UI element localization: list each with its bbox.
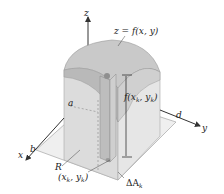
area-label: ΔAk <box>126 178 143 189</box>
column-box-side <box>110 74 116 162</box>
b-label: b <box>30 144 36 154</box>
region-label: R <box>54 162 62 172</box>
column-box <box>100 76 110 162</box>
a-label: a <box>68 98 73 108</box>
column-top-point <box>104 73 110 79</box>
d-label: d <box>176 110 182 120</box>
surface-label: z = f(x, y) <box>113 26 159 36</box>
point-label: (xk, yk) <box>58 172 89 183</box>
x-axis-label: x <box>18 150 23 160</box>
y-axis-label: y <box>201 123 208 133</box>
z-axis-label: z <box>83 8 89 18</box>
double-integral-diagram: z x y z = f(x, y) f(xk, yk) a b d R (xk,… <box>0 0 224 194</box>
